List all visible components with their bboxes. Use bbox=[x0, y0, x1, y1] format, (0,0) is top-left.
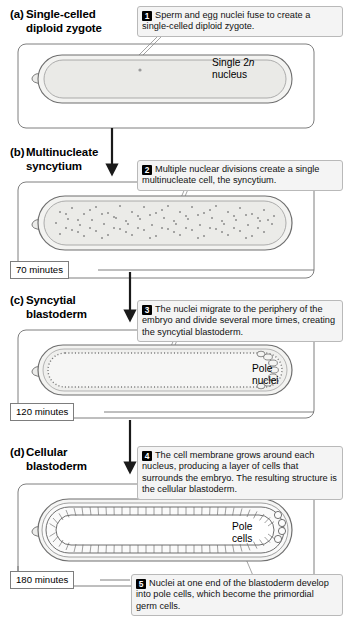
panel-title-d-line1: Cellular bbox=[26, 446, 67, 458]
panel-title-d-line2: blastoderm bbox=[26, 460, 87, 474]
label-pole-nuclei: Pole nuclei bbox=[252, 363, 279, 387]
panel-letter-b: (b) bbox=[10, 146, 26, 160]
label-pole-nuclei-line1: Pole bbox=[252, 363, 272, 374]
step-number-5: 5 bbox=[136, 579, 146, 589]
label-single-2n-nucleus: Single 2n nucleus bbox=[212, 57, 255, 81]
step-text-1: Sperm and egg nuclei fuse to create a si… bbox=[142, 10, 310, 31]
label-single-2n-line1: Single 2 bbox=[212, 57, 249, 68]
panel-letter-a: (a) bbox=[10, 8, 26, 22]
embryo-diagram-zygote bbox=[30, 50, 302, 108]
callout-step-4: 4The cell membrane grows around each nuc… bbox=[137, 446, 343, 500]
panel-heading-b: (b)Multinucleate syncytium bbox=[10, 146, 98, 173]
step-text-4: The cell membrane grows around each nucl… bbox=[142, 450, 337, 494]
panel-heading-d: (d)Cellular blastoderm bbox=[10, 446, 87, 473]
label-2n-italic-n: n bbox=[249, 57, 255, 68]
label-single-2n-line2: nucleus bbox=[212, 69, 247, 80]
callout-step-2: 2Multiple nuclear divisions create a sin… bbox=[137, 160, 343, 191]
label-pole-cells-line1: Pole bbox=[232, 521, 252, 532]
step-number-2: 2 bbox=[142, 165, 152, 175]
panel-title-c-line1: Syncytial bbox=[26, 294, 76, 306]
panel-title-c-line2: blastoderm bbox=[26, 308, 87, 322]
panel-title-b-line1: Multinucleate bbox=[26, 146, 98, 158]
panel-letter-c: (c) bbox=[10, 294, 26, 308]
callout-step-5: 5Nuclei at one end of the blastoderm dev… bbox=[131, 574, 343, 616]
step-number-3: 3 bbox=[142, 305, 152, 315]
step-text-5: Nuclei at one end of the blastoderm deve… bbox=[136, 578, 329, 611]
figure-canvas: (a)Single-celled diploid zygote (b)Multi… bbox=[0, 0, 349, 626]
time-box-120: 120 minutes bbox=[10, 403, 74, 421]
panel-heading-a: (a)Single-celled diploid zygote bbox=[10, 8, 102, 35]
callout-step-1: 1Sperm and egg nuclei fuse to create a s… bbox=[137, 6, 343, 37]
step-number-4: 4 bbox=[142, 451, 152, 461]
time-box-70: 70 minutes bbox=[10, 261, 69, 279]
embryo-diagram-cellular-blastoderm bbox=[30, 494, 302, 566]
panel-title-a-line2: diploid zygote bbox=[26, 22, 102, 36]
embryo-diagram-syncytium bbox=[30, 190, 302, 256]
label-pole-cells-line2: cells bbox=[232, 533, 252, 544]
panel-title-b-line2: syncytium bbox=[26, 160, 98, 174]
panel-heading-c: (c)Syncytial blastoderm bbox=[10, 294, 87, 321]
callout-step-3: 3The nuclei migrate to the periphery of … bbox=[137, 300, 343, 342]
time-box-180: 180 minutes bbox=[10, 571, 74, 589]
panel-title-a-line1: Single-celled bbox=[26, 8, 96, 20]
label-pole-cells: Pole cells bbox=[232, 521, 252, 545]
panel-letter-d: (d) bbox=[10, 446, 26, 460]
step-number-1: 1 bbox=[142, 11, 152, 21]
label-pole-nuclei-line2: nuclei bbox=[252, 375, 279, 386]
step-text-2: Multiple nuclear divisions create a sing… bbox=[142, 164, 319, 185]
step-text-3: The nuclei migrate to the periphery of t… bbox=[142, 304, 335, 337]
